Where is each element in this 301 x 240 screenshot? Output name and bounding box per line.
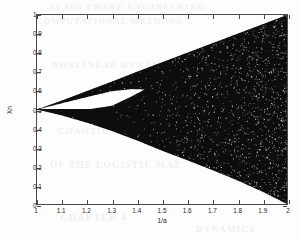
- x-tick-label: 1.1: [57, 207, 66, 214]
- x-tick: [239, 200, 240, 204]
- x-tick: [239, 15, 240, 19]
- x-tick: [163, 200, 164, 204]
- x-axis-title: 1/a: [157, 217, 166, 224]
- bifurcation-figure: AI SOFTWARE ENGINEERING COMPUTATIONAL ME…: [0, 0, 301, 240]
- x-tick: [87, 15, 88, 19]
- x-tick: [188, 15, 189, 19]
- x-tick: [163, 15, 164, 19]
- x-tick: [138, 200, 139, 204]
- x-tick: [113, 15, 114, 19]
- x-tick: [62, 15, 63, 19]
- plot-clip: [37, 15, 287, 204]
- x-tick-label: 1.2: [82, 207, 91, 214]
- x-tick-label: 1.8: [233, 207, 242, 214]
- x-tick: [138, 15, 139, 19]
- ghost-text-line7: CHAPTER 4: [60, 212, 127, 223]
- y-tick: [283, 130, 287, 131]
- plot-area: [36, 14, 288, 205]
- x-tick: [289, 200, 290, 204]
- y-tick: [283, 34, 287, 35]
- x-tick-label: 1.3: [107, 207, 116, 214]
- y-tick: [283, 72, 287, 73]
- y-tick: [283, 149, 287, 150]
- y-tick: [283, 15, 287, 16]
- y-tick: [283, 53, 287, 54]
- x-tick: [113, 200, 114, 204]
- x-tick-label: 1.5: [158, 207, 167, 214]
- x-tick: [62, 200, 63, 204]
- x-tick: [213, 200, 214, 204]
- y-tick: [283, 168, 287, 169]
- x-tick-label: 1.6: [183, 207, 192, 214]
- ghost-text-line1: AI SOFTWARE ENGINEERING: [48, 2, 206, 12]
- x-tick: [188, 200, 189, 204]
- bifurcation-plot: [37, 15, 287, 204]
- y-tick: [283, 187, 287, 188]
- ghost-text-line8: DYNAMICS: [196, 224, 255, 234]
- y-tick: [283, 111, 287, 112]
- x-tick-label: 2: [286, 207, 290, 214]
- x-tick: [289, 15, 290, 19]
- x-tick-label: 1.7: [208, 207, 217, 214]
- x-tick: [264, 15, 265, 19]
- y-tick: [283, 91, 287, 92]
- y-axis-title: Xn: [6, 106, 13, 114]
- x-tick-label: 1.9: [258, 207, 267, 214]
- x-tick-label: 1.4: [132, 207, 141, 214]
- x-tick: [264, 200, 265, 204]
- x-tick: [213, 15, 214, 19]
- x-tick: [37, 200, 38, 204]
- y-tick: [37, 15, 41, 16]
- x-tick: [87, 200, 88, 204]
